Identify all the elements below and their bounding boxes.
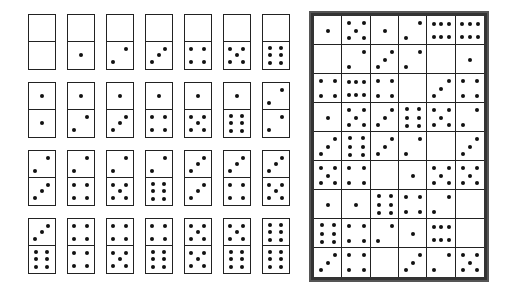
grid-cell xyxy=(456,45,484,74)
pip xyxy=(189,251,193,255)
pip xyxy=(240,129,244,133)
pip xyxy=(111,60,115,64)
pip xyxy=(461,123,465,127)
pip xyxy=(362,108,366,112)
pip xyxy=(33,237,37,241)
pip xyxy=(267,183,271,187)
pip xyxy=(118,94,122,98)
domino-half-bot xyxy=(68,246,94,273)
domino-2-4 xyxy=(67,150,95,206)
domino-3-4 xyxy=(223,150,251,206)
pip xyxy=(40,189,44,193)
pip xyxy=(118,121,122,125)
pip xyxy=(404,210,408,214)
pip xyxy=(461,79,465,83)
pip xyxy=(268,265,272,269)
pip xyxy=(362,166,366,170)
pip xyxy=(196,189,200,193)
pip xyxy=(85,251,89,255)
domino-half-bot xyxy=(146,246,172,273)
pip xyxy=(418,21,422,25)
pip xyxy=(332,223,336,227)
pip xyxy=(439,238,443,242)
pip xyxy=(461,166,465,170)
pip xyxy=(417,116,421,120)
pip xyxy=(228,47,232,51)
pip xyxy=(376,123,380,127)
pip xyxy=(162,182,166,186)
pip xyxy=(468,145,472,149)
pip xyxy=(390,224,394,228)
domino-half-top xyxy=(263,151,289,178)
pip xyxy=(432,238,436,242)
pip xyxy=(390,94,394,98)
pip xyxy=(319,268,323,272)
pip xyxy=(79,94,83,98)
pip xyxy=(280,196,284,200)
pip xyxy=(376,152,380,156)
pip xyxy=(85,156,89,160)
pip xyxy=(447,253,451,257)
pip xyxy=(229,265,233,269)
pip xyxy=(447,108,451,112)
pip xyxy=(404,36,408,40)
pip xyxy=(475,268,479,272)
pip xyxy=(267,196,271,200)
domino-half-top xyxy=(68,83,94,110)
grid-cell xyxy=(456,161,484,190)
pip xyxy=(411,232,415,236)
pip xyxy=(34,257,38,261)
pip xyxy=(189,60,193,64)
grid-cell xyxy=(342,161,370,190)
pip xyxy=(439,116,443,120)
grid-cell xyxy=(314,16,342,45)
pip xyxy=(439,87,443,91)
pip xyxy=(85,183,89,187)
pip xyxy=(354,116,358,120)
pip xyxy=(72,237,76,241)
pip xyxy=(228,237,232,241)
pip xyxy=(362,93,366,97)
grid-cell xyxy=(314,103,342,132)
pip xyxy=(72,128,76,132)
grid-cell xyxy=(456,74,484,103)
pip xyxy=(124,224,128,228)
pip xyxy=(85,237,89,241)
pip xyxy=(85,264,89,268)
pip xyxy=(347,166,351,170)
grid-cell xyxy=(342,132,370,161)
domino-half-bot xyxy=(29,178,55,205)
pip xyxy=(460,35,464,39)
grid-cell xyxy=(427,190,455,219)
grid-cell xyxy=(314,190,342,219)
grid-cell xyxy=(342,248,370,277)
pip xyxy=(418,137,422,141)
pip xyxy=(40,230,44,234)
pip xyxy=(150,60,154,64)
pip xyxy=(447,35,451,39)
pip xyxy=(162,257,166,261)
grid-cell xyxy=(427,74,455,103)
pip xyxy=(72,251,76,255)
pip xyxy=(268,230,272,234)
domino-2-5 xyxy=(106,150,134,206)
pip xyxy=(354,80,358,84)
grid-cell xyxy=(371,190,399,219)
domino-half-top xyxy=(107,219,133,246)
domino-half-top xyxy=(185,151,211,178)
domino-half-top xyxy=(263,83,289,110)
domino-6-6 xyxy=(262,218,290,274)
pip xyxy=(151,182,155,186)
pip xyxy=(475,137,479,141)
pip xyxy=(377,211,381,215)
pip xyxy=(163,237,167,241)
pip xyxy=(240,114,244,118)
domino-half-top xyxy=(185,83,211,110)
pip xyxy=(267,101,271,105)
pip xyxy=(72,264,76,268)
pip xyxy=(468,22,472,26)
pip xyxy=(361,136,365,140)
pip xyxy=(85,115,89,119)
pip xyxy=(268,46,272,50)
pip xyxy=(162,265,166,269)
